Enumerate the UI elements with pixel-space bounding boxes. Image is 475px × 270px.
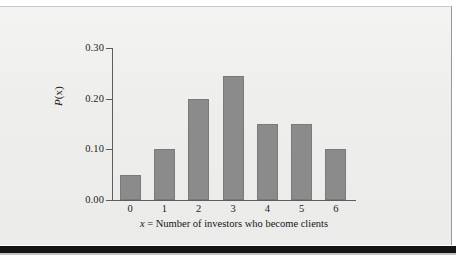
y-axis-tick-label-text: 0.30: [70, 43, 104, 54]
x-axis-tick-label: 4: [255, 204, 279, 215]
bar: [154, 149, 175, 200]
figure-root: 0.000.100.200.30 P(x) 0123456 x = Number…: [0, 0, 475, 270]
x-axis-tick-label: 5: [290, 204, 314, 215]
x-axis-line: [112, 200, 356, 201]
bar-series: [113, 48, 353, 200]
panel-drop-shadow-soft: [0, 253, 456, 255]
y-axis-tick: [106, 48, 112, 49]
bar: [257, 124, 278, 200]
x-axis-tick-label: 2: [187, 204, 211, 215]
y-axis-tick-label: 0.10: [66, 144, 104, 154]
y-axis-tick-label-text: 0.10: [70, 144, 104, 155]
y-axis-tick: [106, 99, 112, 100]
y-axis-tick-label: 0.20: [66, 94, 104, 104]
bar: [188, 99, 209, 200]
y-axis-tick: [106, 149, 112, 150]
x-axis-tick-label: 3: [221, 204, 245, 215]
bar: [325, 149, 346, 200]
panel-drop-shadow: [0, 246, 456, 253]
x-axis-tick-label: 6: [324, 204, 348, 215]
bar: [223, 76, 244, 200]
y-axis-label-function: P: [52, 99, 64, 106]
y-axis-label-arg: (x): [52, 86, 64, 99]
y-axis-tick: [106, 200, 112, 201]
x-axis-label-rest: = Number of investors who become clients: [145, 218, 329, 229]
y-axis-tick-label-text: 0.00: [70, 195, 104, 206]
bar: [291, 124, 312, 200]
y-axis-tick-label-text: 0.20: [70, 94, 104, 105]
y-axis-tick-label: 0.00: [66, 195, 104, 205]
y-axis-label: P(x): [52, 86, 64, 106]
x-axis-tick-label: 1: [152, 204, 176, 215]
bar: [120, 175, 141, 200]
x-axis-tick-label: 0: [118, 204, 142, 215]
x-axis-label: x = Number of investors who become clien…: [112, 219, 356, 230]
y-axis-tick-label: 0.30: [66, 43, 104, 53]
